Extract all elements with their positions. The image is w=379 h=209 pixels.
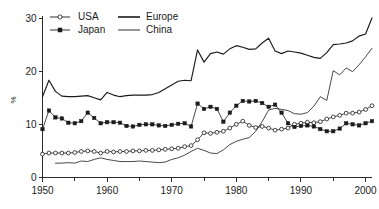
series-line-japan xyxy=(43,101,373,131)
data-point-marker xyxy=(293,125,296,128)
data-point-marker xyxy=(209,105,212,108)
legend-item-europe[interactable]: Europe xyxy=(118,11,179,22)
data-point-marker xyxy=(99,122,102,125)
data-point-marker xyxy=(318,120,322,124)
data-point-marker xyxy=(325,130,328,133)
legend-item-china[interactable]: China xyxy=(118,24,173,35)
data-point-marker xyxy=(189,125,192,128)
data-point-marker xyxy=(196,102,199,105)
y-tick-label: 0 xyxy=(31,172,37,183)
x-tick-label: 1960 xyxy=(96,185,119,196)
y-tick-label: 30 xyxy=(25,13,37,24)
data-point-marker xyxy=(351,123,354,126)
data-point-marker xyxy=(118,121,121,124)
data-point-marker xyxy=(105,150,109,154)
data-point-marker xyxy=(47,151,51,155)
data-point-marker xyxy=(228,126,232,130)
data-point-marker xyxy=(370,104,374,108)
data-point-marker xyxy=(125,124,128,127)
data-point-marker xyxy=(144,123,147,126)
data-point-marker xyxy=(286,126,290,130)
data-point-marker xyxy=(144,148,148,152)
data-point-marker xyxy=(234,122,238,126)
data-point-marker xyxy=(41,152,45,156)
data-point-marker xyxy=(228,111,231,114)
data-point-marker xyxy=(202,131,206,135)
data-point-marker xyxy=(331,115,335,119)
data-point-marker xyxy=(112,150,116,154)
data-point-marker xyxy=(79,150,83,154)
data-point-marker xyxy=(241,119,245,123)
data-point-marker xyxy=(138,149,142,153)
data-point-marker xyxy=(60,151,64,155)
x-tick-label: 2000 xyxy=(354,185,377,196)
data-point-marker xyxy=(273,103,276,106)
data-point-marker xyxy=(151,123,154,126)
data-point-marker xyxy=(344,111,348,115)
data-point-marker xyxy=(157,124,160,127)
data-point-marker xyxy=(54,116,57,119)
chart-axes: 0102030195019601970198019902000% xyxy=(9,13,377,196)
y-tick-label: 20 xyxy=(25,66,37,77)
data-point-marker xyxy=(364,108,368,112)
data-point-marker xyxy=(332,130,335,133)
data-point-marker xyxy=(86,149,90,153)
data-point-marker xyxy=(66,151,70,155)
data-point-marker xyxy=(215,130,219,134)
data-point-marker xyxy=(267,126,271,130)
data-point-marker xyxy=(357,110,361,114)
data-point-marker xyxy=(222,129,226,133)
x-tick-label: 1970 xyxy=(161,185,184,196)
data-point-marker xyxy=(80,119,83,122)
data-point-marker xyxy=(357,124,360,127)
data-point-marker xyxy=(338,127,341,130)
data-point-marker xyxy=(105,121,108,124)
chart-legend: USAEuropeJapanChina xyxy=(50,11,179,35)
data-point-marker xyxy=(209,131,213,135)
data-point-marker xyxy=(312,125,315,128)
data-point-marker xyxy=(54,151,58,155)
data-point-marker xyxy=(273,128,277,132)
data-point-marker xyxy=(176,146,180,150)
data-point-marker xyxy=(247,124,251,128)
data-point-marker xyxy=(176,122,179,125)
data-point-marker xyxy=(280,127,284,131)
y-axis-title: % xyxy=(9,96,18,103)
line-chart-svg: 0102030195019601970198019902000% USAEuro… xyxy=(0,0,379,209)
x-tick-label: 1990 xyxy=(290,185,313,196)
data-point-marker xyxy=(73,151,77,155)
data-point-marker xyxy=(138,123,141,126)
data-point-marker xyxy=(73,122,76,125)
data-point-marker xyxy=(183,122,186,125)
data-point-marker xyxy=(131,125,134,128)
chart-series-group xyxy=(41,18,374,163)
series-line-china xyxy=(55,48,372,163)
data-point-marker xyxy=(92,150,96,154)
data-point-marker xyxy=(344,122,347,125)
legend-label-china: China xyxy=(146,24,173,35)
data-point-marker xyxy=(286,122,289,125)
data-point-marker xyxy=(60,117,63,120)
legend-item-usa[interactable]: USA xyxy=(50,11,99,22)
data-point-marker xyxy=(215,107,218,110)
data-point-marker xyxy=(189,144,193,148)
data-point-marker xyxy=(163,147,167,151)
data-point-marker xyxy=(125,150,129,154)
legend-item-japan[interactable]: Japan xyxy=(50,24,105,35)
data-point-marker xyxy=(112,121,115,124)
data-point-marker xyxy=(351,111,355,115)
legend-label-usa: USA xyxy=(78,11,99,22)
legend-label-europe: Europe xyxy=(146,11,179,22)
data-point-marker xyxy=(267,105,270,108)
data-point-marker xyxy=(254,99,257,102)
data-point-marker xyxy=(92,116,95,119)
data-point-marker xyxy=(86,111,89,114)
data-point-marker xyxy=(157,148,161,152)
x-tick-label: 1980 xyxy=(225,185,248,196)
data-point-marker xyxy=(260,125,264,129)
chart-figure: 0102030195019601970198019902000% USAEuro… xyxy=(0,0,379,209)
data-point-marker xyxy=(235,104,238,107)
data-point-marker xyxy=(364,122,367,125)
legend-marker-open-circle-icon xyxy=(58,15,62,19)
data-point-marker xyxy=(183,145,187,149)
